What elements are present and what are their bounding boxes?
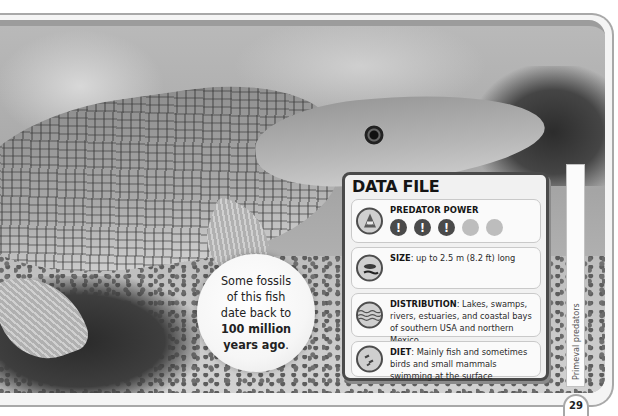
fact-period: .	[285, 337, 289, 352]
size-card: SIZE: up to 2.5 m (8.2 ft) long	[351, 247, 541, 289]
size-value: : up to 2.5 m (8.2 ft) long	[411, 252, 516, 263]
rating-dot-filled: !	[438, 219, 455, 236]
diet-card: DIET: Mainly fish and sometimes birds an…	[351, 341, 541, 377]
page-number: 29	[563, 394, 589, 416]
predator-power-card: PREDATOR POWER ! ! !	[351, 199, 541, 243]
distribution-card: DISTRIBUTION: Lakes, swamps, rivers, est…	[351, 293, 541, 337]
fish-and-diver-icon	[356, 255, 383, 282]
diet-value: : Mainly fish and sometimes birds and sm…	[390, 346, 527, 381]
rating-dot-empty	[486, 219, 503, 236]
fact-highlight: 100 million	[221, 321, 291, 336]
rating-dot-filled: !	[390, 219, 407, 236]
rating-dot-filled: !	[414, 219, 431, 236]
fish-eye	[364, 125, 384, 145]
shark-jaws-icon	[356, 208, 383, 235]
data-file-title: DATA FILE	[352, 177, 439, 196]
fact-line: date back to	[221, 305, 292, 321]
section-tab: Primeval predators	[566, 164, 585, 387]
data-file-panel: DATA FILE PREDATOR POWER ! ! ! SIZE: up …	[342, 172, 549, 381]
predator-power-label: PREDATOR POWER	[390, 204, 536, 216]
predator-power-rating: ! ! !	[390, 219, 536, 236]
size-label: SIZE	[390, 252, 411, 263]
rating-dot-empty	[462, 219, 479, 236]
small-fish-icon	[356, 346, 383, 373]
section-tab-label: Primeval predators	[571, 303, 581, 380]
water-waves-icon	[356, 302, 383, 329]
distribution-label: DISTRIBUTION	[390, 298, 457, 309]
fact-highlight: years ago	[223, 337, 285, 352]
diet-label: DIET	[390, 346, 411, 357]
fact-bubble: Some fossils of this fish date back to 1…	[197, 254, 315, 372]
fact-line: Some fossils	[221, 273, 291, 289]
fact-line: of this fish	[227, 289, 286, 305]
